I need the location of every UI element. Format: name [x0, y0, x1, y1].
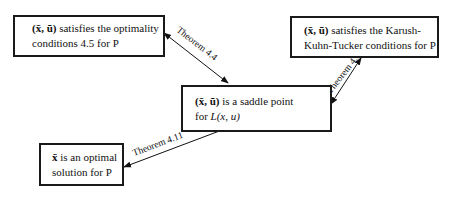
node-text-line2-prefix: for	[195, 110, 211, 122]
node-text-line2: Kuhn-Tucker conditions for P	[304, 39, 436, 51]
edge-label: Theorem 4.4	[175, 25, 220, 63]
node-text-line1: satisfies the optimality	[59, 22, 159, 34]
edge-theorem-4-4: Theorem 4.4	[164, 25, 228, 83]
edge-label: Theorem 4.11	[131, 130, 184, 158]
node-symbol: (x̄, ū)	[32, 22, 56, 34]
node-symbol: x̄	[52, 151, 58, 163]
node-symbol: (x̄, ū)	[195, 95, 219, 107]
node-text-line1: is an optimal	[60, 151, 117, 163]
node-text-line2: conditions 4.5 for P	[32, 37, 119, 49]
lagrangian-math: L(x, u)	[211, 110, 240, 122]
node-optimal-solution: x̄ is an optimal solution for P	[39, 143, 124, 186]
node-text-line2: solution for P	[52, 166, 112, 178]
node-symbol: (x̄, ū)	[304, 24, 328, 36]
node-optimality: (x̄, ū) satisfies the optimality conditi…	[13, 15, 165, 57]
node-text-line1: is a saddle point	[222, 95, 293, 107]
node-kkt: (x̄, ū) satisfies the Karush- Kuhn-Tucke…	[290, 16, 439, 58]
node-saddle-point: (x̄, ū) is a saddle point for L(x, u)	[181, 85, 332, 132]
edge-theorem-4-11: Theorem 4.11	[124, 127, 230, 167]
node-text-line1: satisfies the Karush-	[331, 24, 421, 36]
